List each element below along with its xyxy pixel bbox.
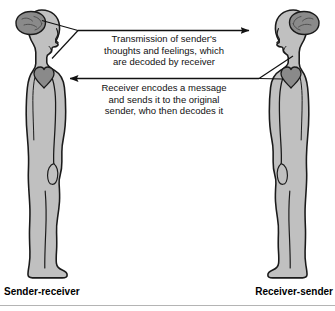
right-figure-body — [268, 10, 309, 278]
feedback-message-text: Receiver encodes a message and sends it … — [85, 82, 243, 117]
communication-model-diagram: Transmission of sender's thoughts and fe… — [0, 0, 335, 311]
left-figure-brain-icon — [16, 12, 46, 35]
bottom-divider — [0, 305, 335, 306]
left-figure-body — [26, 10, 67, 278]
right-figure — [268, 10, 319, 278]
receiver-sender-label: Receiver-sender — [255, 286, 333, 297]
right-figure-brain-icon — [290, 12, 320, 35]
sender-receiver-label: Sender-receiver — [4, 286, 80, 297]
transmission-message-text: Transmission of sender's thoughts and fe… — [88, 33, 240, 68]
